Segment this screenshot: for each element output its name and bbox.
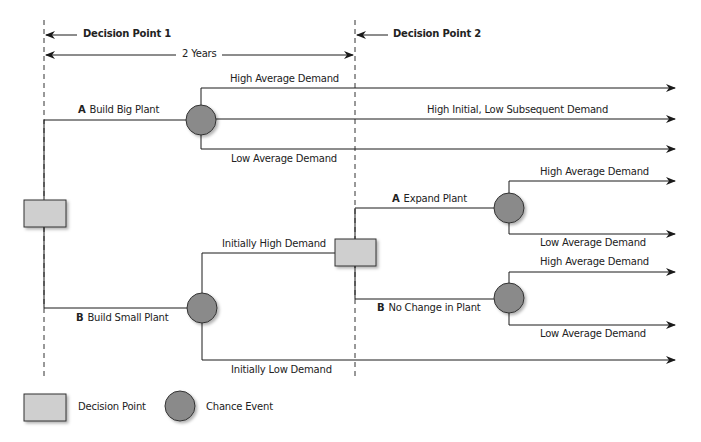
legend-decision-label: Decision Point [78, 401, 146, 412]
decision-node-2 [335, 239, 376, 266]
branch-label-expand-plant: AExpand Plant [392, 193, 467, 204]
chance-node-expand [494, 193, 524, 223]
branch-letter: A [392, 193, 400, 204]
outcome-initially-low: Initially Low Demand [231, 364, 332, 375]
branch-text: Build Big Plant [90, 104, 160, 115]
legend-chance-swatch [165, 391, 195, 421]
decision-point-2-label: Decision Point 2 [393, 28, 481, 39]
outcome-nochange-high-avg: High Average Demand [540, 256, 649, 267]
branch-letter: A [78, 104, 86, 115]
decision-node-1 [24, 200, 66, 227]
branch-letter: B [76, 312, 83, 323]
chance-node-big-plant [186, 105, 216, 135]
branch-label-big-plant: ABuild Big Plant [78, 104, 159, 115]
branch-text: Expand Plant [404, 193, 467, 204]
legend-chance-label: Chance Event [206, 401, 273, 412]
outcome-expand-high-avg: High Average Demand [540, 166, 649, 177]
branch-text: No Change in Plant [388, 302, 480, 313]
chance-node-no-change [494, 283, 524, 313]
legend-decision-swatch [24, 394, 66, 421]
branch-letter: B [377, 302, 384, 313]
outcome-initially-high: Initially High Demand [222, 238, 326, 249]
branch-text: Build Small Plant [87, 312, 168, 323]
outcome-nochange-low-avg: Low Average Demand [540, 328, 646, 339]
branch-label-small-plant: BBuild Small Plant [76, 312, 168, 323]
branch-label-no-change: BNo Change in Plant [377, 302, 481, 313]
chance-node-small-plant [187, 293, 217, 323]
duration-label: 2 Years [182, 48, 217, 59]
decision-tree-diagram [0, 0, 701, 442]
outcome-expand-low-avg: Low Average Demand [540, 237, 646, 248]
outcome-big-low-avg: Low Average Demand [231, 153, 337, 164]
decision-point-1-label: Decision Point 1 [83, 28, 171, 39]
outcome-big-high-avg: High Average Demand [230, 73, 339, 84]
outcome-big-high-initial-low-subsequent: High Initial, Low Subsequent Demand [427, 104, 608, 115]
